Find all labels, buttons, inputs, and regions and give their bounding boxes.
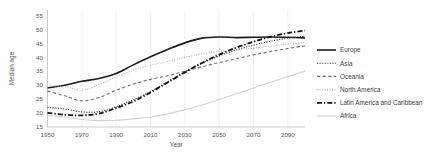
y-tick-label: 50	[36, 26, 43, 33]
y-tick-label: 40	[36, 54, 43, 61]
chart-canvas: 19501970199020102030205020702090 1520253…	[0, 0, 435, 160]
x-tick-label: 2030	[178, 131, 192, 138]
x-tick-label: 1950	[41, 131, 55, 138]
y-axis-title: Median age	[8, 51, 16, 85]
legend-item-oceania[interactable]: Oceania	[317, 73, 364, 80]
y-tick-label: 20	[36, 109, 43, 116]
median-age-line-chart: 19501970199020102030205020702090 1520253…	[0, 0, 435, 160]
y-tick-label: 25	[36, 95, 43, 102]
legend-item-label: Africa	[340, 112, 357, 119]
gridlines	[48, 10, 288, 127]
x-tick-label: 2010	[144, 131, 158, 138]
y-tick-label: 15	[36, 123, 43, 130]
legend-item-africa[interactable]: Africa	[317, 112, 357, 119]
series-line-oceania	[48, 46, 306, 101]
legend-item-label: North America	[340, 86, 381, 93]
x-tick-label: 2090	[281, 131, 295, 138]
axes	[48, 10, 306, 127]
legend-item-asia[interactable]: Asia	[317, 60, 353, 67]
legend-item-label: Europe	[340, 46, 361, 54]
legend-item-europe[interactable]: Europe	[317, 46, 361, 54]
legend-item-label: Latin America and Caribbean	[340, 99, 423, 106]
legend-item-label: Oceania	[340, 73, 364, 80]
legend-item-label: Asia	[340, 60, 353, 67]
x-tick-label: 1990	[109, 131, 123, 138]
y-tick-label: 35	[36, 67, 43, 74]
series-line-africa	[48, 71, 306, 120]
y-tick-label: 45	[36, 40, 43, 47]
x-axis-title: Year	[170, 141, 184, 148]
legend-item-latin-america-and-caribbean[interactable]: Latin America and Caribbean	[317, 99, 423, 106]
x-tick-label: 1970	[75, 131, 89, 138]
y-tick-label: 30	[36, 81, 43, 88]
y-axis-tick-labels: 152025303540455055	[36, 12, 43, 130]
series-line-europe	[48, 37, 306, 88]
x-tick-label: 2070	[247, 131, 261, 138]
x-tick-label: 2050	[212, 131, 226, 138]
chart-legend: EuropeAsiaOceaniaNorth AmericaLatin Amer…	[317, 46, 423, 119]
series-lines	[48, 31, 306, 121]
x-axis-tick-labels: 19501970199020102030205020702090	[41, 131, 296, 138]
series-line-latin-america-and-caribbean	[48, 31, 306, 116]
legend-item-north-america[interactable]: North America	[317, 86, 381, 93]
y-tick-label: 55	[36, 12, 43, 19]
